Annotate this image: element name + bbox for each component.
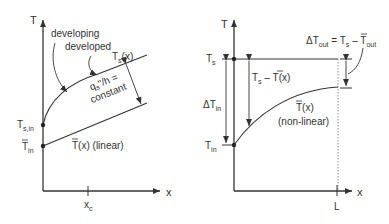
delta-t-out-label: ΔTout = Ts – Tout — [306, 35, 376, 48]
ts-minus-t-label: Ts – T(x) — [252, 72, 290, 85]
t-in-label-right: Tin — [205, 140, 217, 153]
mean-curve-label-right: T(x) — [296, 102, 314, 113]
right-y-axis-label: T — [221, 18, 228, 30]
t-in-point — [41, 144, 45, 148]
non-linear-label: (non-linear) — [278, 116, 329, 127]
right-panel: T x L Ts Tin ΔTin Ts – T(x) T(x) (non-li… — [203, 18, 376, 212]
mean-curve-label: T(x) (linear) — [72, 140, 124, 151]
ts-in-label: Ts,in — [17, 119, 34, 132]
left-y-axis-label: T — [30, 14, 37, 26]
left-panel: T x xc Ts,in Tin T(x) (linear) Ts(x) dev… — [17, 14, 172, 212]
developed-label: developed — [65, 41, 111, 52]
right-x-axis-label: x — [357, 186, 363, 198]
delta-t-out-pointer — [348, 48, 363, 74]
ts-point — [232, 57, 236, 61]
ts-in-point — [41, 123, 45, 127]
delta-t-in-label: ΔTin — [203, 99, 221, 112]
l-label: L — [334, 201, 340, 212]
gap-label: qs"/h = constant — [84, 69, 128, 105]
ts-label: Ts — [206, 53, 216, 66]
xc-label: xc — [84, 199, 93, 212]
t-in-label: Tin — [22, 141, 34, 154]
left-x-axis-label: x — [166, 186, 172, 198]
gap-dimension-arrow — [126, 64, 141, 104]
developing-label: developing — [51, 28, 99, 39]
developed-pointer — [89, 56, 97, 75]
diagram: T x xc Ts,in Tin T(x) (linear) Ts(x) dev… — [0, 0, 389, 224]
